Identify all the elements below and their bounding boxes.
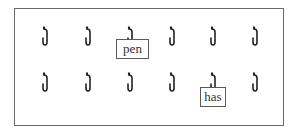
word-card-pen: pen <box>116 39 149 59</box>
hook-icon <box>250 72 260 92</box>
word-card-label: pen <box>123 41 142 56</box>
word-card-has: has <box>200 87 226 107</box>
hook-icon <box>40 26 50 46</box>
word-card-label: has <box>204 89 221 104</box>
hook-icon <box>250 26 260 46</box>
diagram-frame <box>14 8 284 126</box>
hook-icon <box>125 72 135 92</box>
hook-icon <box>83 26 93 46</box>
hook-icon <box>40 72 50 92</box>
hook-icon <box>83 72 93 92</box>
hook-icon <box>167 26 177 46</box>
hook-icon <box>167 72 177 92</box>
hook-icon <box>208 26 218 46</box>
